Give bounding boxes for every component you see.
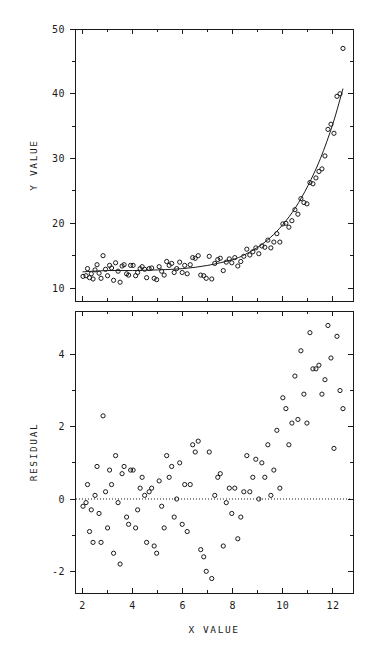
data-point	[202, 555, 206, 559]
data-point	[191, 443, 195, 447]
data-point	[227, 486, 231, 490]
data-point	[287, 443, 291, 447]
y-axis-title: RESIDUAL	[28, 423, 39, 482]
x-tick-label: 10	[276, 600, 289, 611]
data-point	[341, 46, 345, 50]
data-point	[248, 490, 252, 494]
data-point	[185, 272, 189, 276]
y-tick-label: 20	[52, 218, 65, 229]
data-point	[266, 443, 270, 447]
data-point	[113, 261, 117, 265]
data-point	[278, 240, 282, 244]
data-point	[84, 501, 88, 505]
y-tick-label: 40	[52, 88, 65, 99]
top-panel-y-vs-x: 1020304050Y VALUE	[28, 24, 353, 302]
data-point	[320, 167, 324, 171]
data-point	[107, 468, 111, 472]
x-tick-label: 8	[230, 600, 237, 611]
data-point	[236, 264, 240, 268]
data-point	[118, 280, 122, 284]
data-point	[296, 417, 300, 421]
data-point	[89, 272, 93, 276]
data-point	[196, 439, 200, 443]
bottom-panel-residuals: 24681012-2024RESIDUALX VALUE	[28, 311, 353, 635]
y-tick-label: 10	[52, 283, 65, 294]
data-point	[326, 323, 330, 327]
data-point	[155, 551, 159, 555]
data-point-group	[81, 46, 345, 284]
data-point	[178, 461, 182, 465]
data-point	[157, 479, 161, 483]
data-point	[245, 247, 249, 251]
data-point	[180, 270, 184, 274]
data-point	[341, 407, 345, 411]
data-point	[118, 562, 122, 566]
fitted-curve	[83, 89, 343, 272]
y-tick-label: 4	[58, 349, 65, 360]
data-point	[93, 493, 97, 497]
data-point	[87, 529, 91, 533]
data-point	[91, 540, 95, 544]
data-point	[116, 269, 120, 273]
data-point	[230, 511, 234, 515]
data-point	[136, 508, 140, 512]
data-point	[335, 334, 339, 338]
data-point	[95, 464, 99, 468]
data-point	[134, 526, 138, 530]
data-point	[329, 356, 333, 360]
data-point	[239, 259, 243, 263]
data-point	[332, 131, 336, 135]
y-tick-label: 30	[52, 153, 65, 164]
data-point	[230, 261, 234, 265]
data-point	[113, 454, 117, 458]
data-point	[165, 259, 169, 263]
y-axis-title: Y VALUE	[28, 139, 39, 190]
data-point	[221, 268, 225, 272]
data-point	[210, 277, 214, 281]
data-point	[152, 544, 156, 548]
data-point	[257, 497, 261, 501]
data-point	[323, 154, 327, 158]
data-point	[210, 576, 214, 580]
data-point	[101, 414, 105, 418]
data-point	[213, 493, 217, 497]
data-point	[221, 544, 225, 548]
data-point	[162, 273, 166, 277]
data-point	[305, 421, 309, 425]
data-point	[99, 276, 103, 280]
data-point	[109, 482, 113, 486]
data-point	[263, 475, 267, 479]
data-point	[272, 468, 276, 472]
data-point	[326, 127, 330, 131]
x-tick-label: 12	[326, 600, 339, 611]
data-point	[314, 367, 318, 371]
data-point	[275, 428, 279, 432]
data-point	[124, 515, 128, 519]
data-point	[101, 254, 105, 258]
data-point	[136, 270, 140, 274]
data-point	[103, 490, 107, 494]
data-point	[81, 504, 85, 508]
data-point	[204, 569, 208, 573]
data-point	[143, 493, 147, 497]
data-point	[302, 392, 306, 396]
data-point	[278, 486, 282, 490]
data-point	[165, 454, 169, 458]
data-point	[180, 522, 184, 526]
data-point	[193, 450, 197, 454]
data-point	[97, 271, 101, 275]
data-point	[236, 537, 240, 541]
data-point	[275, 232, 279, 236]
data-point	[242, 490, 246, 494]
data-point	[338, 388, 342, 392]
data-point	[170, 464, 174, 468]
data-point	[269, 493, 273, 497]
data-point	[290, 421, 294, 425]
data-point	[254, 457, 258, 461]
data-point	[296, 212, 300, 216]
y-tick-label: 0	[58, 494, 65, 505]
data-point	[284, 407, 288, 411]
data-point	[138, 486, 142, 490]
data-point	[111, 278, 115, 282]
figure-container: 1020304050Y VALUE 24681012-2024RESIDUALX…	[0, 0, 374, 661]
